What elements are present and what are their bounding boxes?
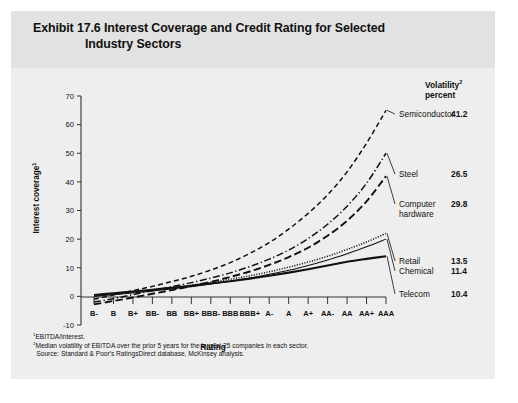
footnote-2: 2Median volatility of EBITDA over the pr…: [33, 342, 473, 351]
page-title: Exhibit 17.6 Interest Coverage and Credi…: [33, 20, 463, 52]
series-label-telecom: Telecom: [399, 289, 430, 299]
title-band: Exhibit 17.6 Interest Coverage and Credi…: [11, 11, 495, 68]
volatility-value-telecom: 10.4: [451, 289, 467, 299]
volatility-header-line1: Volatility: [425, 80, 459, 90]
volatility-header-superscript: 2: [459, 79, 462, 85]
series-label-semiconductor: Semiconductor: [399, 109, 454, 119]
footnotes: 1EBITDA/Interest. 2Median volatility of …: [33, 333, 473, 359]
title-line-2: Industry Sectors: [85, 36, 463, 52]
volatility-value-retail: 13.5: [451, 256, 467, 266]
series-label-retail: Retail: [399, 256, 420, 266]
footnote-2-text: Median volatility of EBITDA over the pri…: [35, 342, 308, 349]
footnote-1: 1EBITDA/Interest.: [33, 333, 473, 342]
volatility-value-steel: 26.5: [451, 169, 467, 179]
volatility-value-semiconductor: 41.2: [451, 109, 467, 119]
volatility-column-header: Volatility2 percent: [425, 80, 462, 101]
volatility-value-computer-hardware: 29.8: [451, 199, 467, 209]
series-label-computer-hardware: Computerhardware: [399, 199, 435, 220]
title-line-1: Exhibit 17.6 Interest Coverage and Credi…: [33, 21, 385, 35]
volatility-value-chemical: 11.4: [451, 266, 467, 276]
series-label-steel: Steel: [399, 169, 418, 179]
volatility-header-line2: percent: [425, 90, 455, 100]
series-label-chemical: Chemical: [399, 266, 434, 276]
source-note: Source: Standard & Poor's RatingsDirect …: [33, 350, 473, 359]
exhibit-panel: Exhibit 17.6 Interest Coverage and Credi…: [11, 11, 495, 379]
footnote-1-text: EBITDA/Interest.: [35, 333, 84, 340]
